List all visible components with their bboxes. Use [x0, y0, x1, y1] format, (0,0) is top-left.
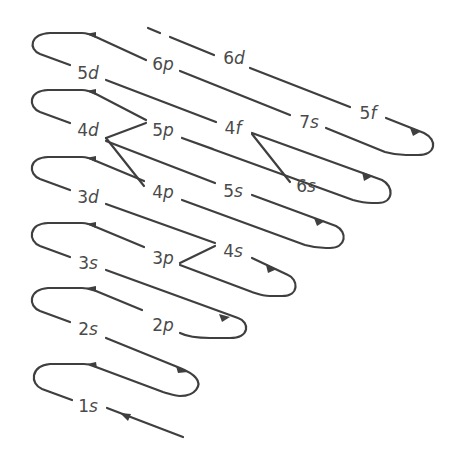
orbital-label-5s: 5s: [223, 183, 243, 200]
path-6d-start-dashed: [148, 28, 214, 55]
orbital-label-4f: 4f: [225, 120, 242, 137]
path-4d-loop: [32, 90, 146, 123]
orbital-label-6p: 6p: [152, 56, 174, 73]
path-5d-loop: [33, 33, 146, 65]
path-3p-diagonal: [180, 258, 296, 296]
orbital-label-5f: 5f: [360, 105, 377, 122]
orbital-label-7s: 7s: [299, 114, 319, 131]
arrow-icon: [362, 172, 373, 181]
path-5p-to-loop: [182, 133, 391, 203]
orbital-label-4s: 4s: [223, 243, 243, 260]
path-1s-entry: [107, 408, 183, 437]
path-6d-to-5f: [250, 68, 350, 107]
orbital-label-6s: 6s: [296, 178, 316, 195]
path-2s-to-2p: [32, 288, 142, 322]
path-1s-to-2s: [34, 338, 198, 400]
orbital-label-5p: 5p: [152, 122, 174, 139]
orbital-label-4p: 4p: [152, 184, 174, 201]
orbital-label-5d: 5d: [77, 65, 99, 82]
filling-path-lines: [0, 0, 454, 464]
orbital-label-3d: 3d: [77, 189, 99, 206]
path-7s-to-loop: [326, 118, 433, 155]
path-4f-to-6s: [106, 80, 216, 122]
orbital-label-6d: 6d: [223, 50, 245, 67]
orbital-label-3p: 3p: [152, 250, 174, 267]
arrow-icon: [176, 366, 188, 373]
orbital-label-2s: 2s: [78, 321, 98, 338]
orbital-label-2p: 2p: [152, 317, 174, 334]
path-4d-to-5p: [106, 123, 146, 138]
orbital-label-3s: 3s: [78, 255, 98, 272]
orbital-label-4d: 4d: [77, 122, 99, 139]
path-5p-to-5s: [106, 141, 215, 183]
arrow-icon: [120, 413, 131, 421]
orbital-filling-diagram: 1s 2s 2p 3s 3p 4s 3d 4p 5s 6s 4d 5p 4f 7…: [0, 0, 454, 464]
path-6s-entry: [252, 134, 290, 182]
path-3p-to-4s: [180, 246, 215, 263]
path-4p-diagonal: [106, 138, 144, 186]
path-3d-loop: [32, 157, 144, 190]
orbital-label-1s: 1s: [78, 398, 98, 415]
